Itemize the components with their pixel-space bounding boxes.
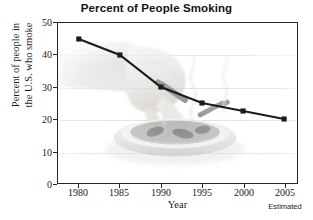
data-point-2000	[240, 108, 245, 113]
y-axis-title-line1: Percent of people in	[10, 23, 21, 107]
y-axis-title-line2: the U.S. who smoke	[23, 23, 34, 108]
data-line	[79, 39, 284, 119]
y-tick-label-0: 0	[18, 179, 52, 190]
data-series-layer	[58, 23, 297, 183]
data-point-1980	[76, 36, 81, 41]
smoking-percent-chart: Percent of People Smoking Percent of peo…	[0, 0, 313, 220]
x-tick-label-2005: 2005	[265, 187, 305, 198]
data-point-1995	[199, 100, 204, 105]
data-point-1985	[117, 52, 122, 57]
data-point-1990	[158, 84, 163, 89]
y-tick-label-10: 10	[18, 147, 52, 158]
x-tick-label-1985: 1985	[99, 187, 139, 198]
x-tick-label-1990: 1990	[141, 187, 181, 198]
x-tick-label-1995: 1995	[182, 187, 222, 198]
y-tick-label-40: 40	[18, 49, 52, 60]
y-tick-label-50: 50	[18, 17, 52, 28]
data-point-2005	[282, 116, 287, 121]
plot-area	[57, 22, 298, 184]
chart-title: Percent of People Smoking	[0, 2, 313, 14]
y-tick-label-30: 30	[18, 82, 52, 93]
estimated-annotation: Estimated	[255, 202, 313, 211]
x-tick-label-2000: 2000	[224, 187, 264, 198]
y-tick-mark-0	[53, 184, 57, 185]
x-tick-label-1980: 1980	[58, 187, 98, 198]
y-tick-label-20: 20	[18, 114, 52, 125]
